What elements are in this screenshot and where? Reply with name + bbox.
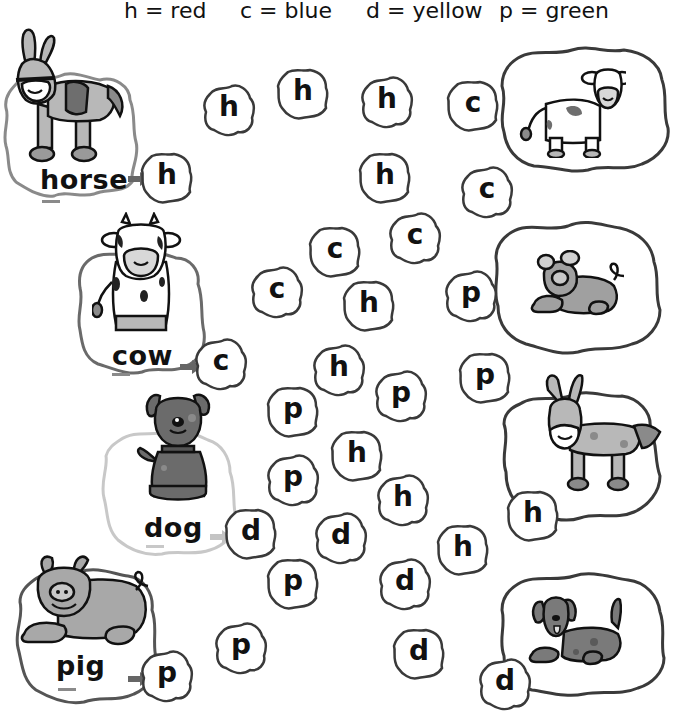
letter-blob[interactable]: d: [476, 656, 534, 712]
letter-blob[interactable]: h: [200, 82, 258, 138]
letter-blob[interactable]: d: [376, 556, 434, 612]
letter-blob[interactable]: p: [442, 268, 500, 324]
letter-blob[interactable]: h: [434, 522, 492, 578]
answer-blob-cow: c: [192, 336, 250, 392]
picture-cloud-cow[interactable]: [494, 40, 674, 180]
example-word-dog: dog: [144, 512, 203, 543]
letter-blob[interactable]: h: [358, 74, 416, 130]
letter-blob[interactable]: c: [248, 264, 306, 320]
letter-blob[interactable]: p: [264, 452, 322, 508]
picture-cloud-pig[interactable]: [488, 212, 664, 358]
dog-icon: [528, 592, 628, 668]
letter-blob[interactable]: p: [372, 368, 430, 424]
letter-blob[interactable]: p: [264, 556, 322, 612]
answer-blob-horse: h: [138, 150, 196, 206]
first-letter-underline: [58, 688, 76, 691]
letter-blob[interactable]: c: [306, 224, 364, 280]
letter-blob[interactable]: c: [458, 164, 516, 220]
pig-icon: [530, 250, 626, 320]
key-c: c = blue: [240, 0, 332, 23]
letter-blob[interactable]: p: [264, 384, 322, 440]
letter-blob[interactable]: d: [390, 626, 448, 682]
answer-blob-dog: d: [222, 506, 280, 562]
letter-blob[interactable]: c: [444, 78, 502, 134]
cow-icon: [516, 68, 626, 158]
cow-icon: [92, 212, 188, 336]
letter-blob[interactable]: h: [356, 150, 414, 206]
example-word-horse: horse: [40, 164, 128, 195]
answer-blob-pig: p: [138, 648, 196, 704]
letter-blob[interactable]: p: [456, 350, 514, 406]
first-letter-underline: [146, 545, 164, 548]
letter-blob[interactable]: h: [504, 488, 562, 544]
donkey-icon: [538, 370, 664, 496]
letter-blob[interactable]: p: [212, 620, 270, 676]
example-word-pig: pig: [56, 650, 105, 681]
key-h: h = red: [124, 0, 206, 23]
letter-blob[interactable]: h: [374, 472, 432, 528]
key-p: p = green: [499, 0, 609, 23]
letter-blob[interactable]: h: [274, 66, 332, 122]
donkey-icon: [8, 28, 128, 168]
letter-blob[interactable]: h: [340, 278, 398, 334]
first-letter-underline: [42, 200, 60, 203]
key-d: d = yellow: [366, 0, 483, 23]
example-word-cow: cow: [112, 340, 173, 371]
letter-blob[interactable]: c: [386, 210, 444, 266]
dog-icon: [134, 388, 224, 508]
first-letter-underline: [112, 373, 130, 376]
pig-icon: [18, 552, 158, 648]
